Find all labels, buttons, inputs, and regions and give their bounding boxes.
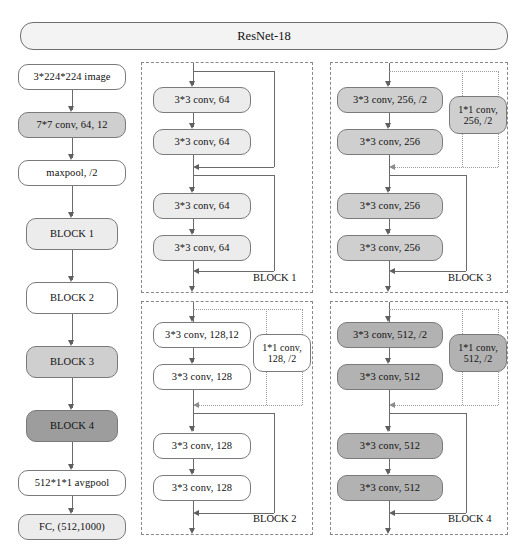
block-3-downsample-conv-line2: 256, /2 <box>464 115 492 127</box>
diagram-title-label: ResNet-18 <box>237 29 290 44</box>
connector-line <box>389 155 390 167</box>
block-3-conv-2[interactable]: 3*3 conv, 256 <box>337 129 443 155</box>
skip-connection-line <box>274 175 275 271</box>
skip-connection-line <box>389 413 467 414</box>
block-2-conv-2[interactable]: 3*3 conv, 128 <box>153 364 251 390</box>
block-3-conv-4[interactable]: 3*3 conv, 256 <box>337 235 443 261</box>
pipeline-node-avgpool[interactable]: 512*1*1 avgpool <box>18 470 126 496</box>
downsample-shortcut-line <box>389 71 499 72</box>
skip-connection-line <box>393 513 466 514</box>
pipeline-node-maxpool[interactable]: maxpool, /2 <box>18 160 126 186</box>
pipeline-node-block4[interactable]: BLOCK 4 <box>26 410 118 442</box>
downsample-shortcut-line <box>462 71 463 96</box>
skip-connection-line <box>193 175 275 176</box>
downsample-shortcut-line <box>193 309 303 310</box>
connector-line <box>193 261 194 271</box>
skip-connection-line <box>466 413 467 513</box>
connector-line <box>389 501 390 513</box>
pipeline-node-conv7x7[interactable]: 7*7 conv, 64, 12 <box>18 112 126 138</box>
downsample-shortcut-line <box>393 405 498 406</box>
block-2-conv-1[interactable]: 3*3 conv, 128,12 <box>153 322 251 348</box>
arrow-left-icon <box>193 268 199 274</box>
block-4-conv-2[interactable]: 3*3 conv, 512 <box>337 364 443 390</box>
block-4-conv-3[interactable]: 3*3 conv, 512 <box>337 433 443 459</box>
connector-line <box>389 390 390 405</box>
block-2-downsample-conv-line1: 1*1 conv, <box>262 342 302 354</box>
pipeline-node-block1[interactable]: BLOCK 1 <box>26 218 118 250</box>
block-2-downsample-conv-line2: 128, /2 <box>268 353 296 365</box>
block-3-conv-1[interactable]: 3*3 conv, 256, /2 <box>337 87 443 113</box>
downsample-shortcut-line <box>462 134 463 167</box>
downsample-shortcut-line <box>389 309 499 310</box>
pipeline-node-fc[interactable]: FC, (512,1000) <box>18 514 126 540</box>
downsample-shortcut-line <box>197 405 302 406</box>
arrow-left-icon <box>389 402 395 408</box>
skip-connection-line <box>193 71 275 72</box>
block-3-downsample-conv-line1: 1*1 conv, <box>458 104 498 116</box>
arrow-left-icon <box>193 510 199 516</box>
arrow-down-icon <box>385 528 391 534</box>
connector-line <box>389 261 390 271</box>
arrow-left-icon <box>389 164 395 170</box>
arrow-down-icon <box>189 528 195 534</box>
block-4-downsample-conv-line1: 1*1 conv, <box>458 342 498 354</box>
skip-connection-line <box>466 175 467 271</box>
block-4-downsample-conv-line2: 512, /2 <box>464 353 492 365</box>
downsample-shortcut-line <box>266 309 267 334</box>
downsample-shortcut-line <box>462 372 463 405</box>
block-2-region-label: BLOCK 2 <box>253 513 296 524</box>
pipeline-node-block3[interactable]: BLOCK 3 <box>26 346 118 378</box>
skip-connection-line <box>197 271 274 272</box>
downsample-shortcut-line <box>266 372 267 405</box>
connector-line <box>193 501 194 513</box>
diagram-title: ResNet-18 <box>20 22 508 50</box>
block-2-conv-3[interactable]: 3*3 conv, 128 <box>153 433 251 459</box>
block-1-conv-3[interactable]: 3*3 conv, 64 <box>153 193 251 219</box>
connector-line <box>193 155 194 167</box>
resnet18-architecture-diagram: ResNet-18 3*224*224 image 7*7 conv, 64, … <box>0 0 523 547</box>
skip-connection-line <box>197 167 274 168</box>
block-2-downsample-conv[interactable]: 1*1 conv, 128, /2 <box>253 334 311 372</box>
block-3-downsample-conv[interactable]: 1*1 conv, 256, /2 <box>449 96 507 134</box>
arrow-left-icon <box>193 164 199 170</box>
skip-connection-line <box>274 413 275 513</box>
block-3-region-label: BLOCK 3 <box>448 272 491 283</box>
skip-connection-line <box>193 413 275 414</box>
block-2-conv-4[interactable]: 3*3 conv, 128 <box>153 475 251 501</box>
downsample-shortcut-line <box>462 309 463 334</box>
skip-connection-line <box>389 175 467 176</box>
skip-connection-line <box>197 513 274 514</box>
arrow-down-icon <box>385 286 391 292</box>
block-1-region-label: BLOCK 1 <box>253 272 296 283</box>
connector-line <box>193 390 194 405</box>
block-3-conv-3[interactable]: 3*3 conv, 256 <box>337 193 443 219</box>
arrow-left-icon <box>389 268 395 274</box>
block-1-conv-2[interactable]: 3*3 conv, 64 <box>153 129 251 155</box>
skip-connection-line <box>274 71 275 167</box>
arrow-left-icon <box>389 510 395 516</box>
block-1-conv-4[interactable]: 3*3 conv, 64 <box>153 235 251 261</box>
block-4-downsample-conv[interactable]: 1*1 conv, 512, /2 <box>449 334 507 372</box>
skip-connection-line <box>393 271 466 272</box>
arrow-down-icon <box>189 286 195 292</box>
block-4-conv-1[interactable]: 3*3 conv, 512, /2 <box>337 322 443 348</box>
pipeline-node-input-image[interactable]: 3*224*224 image <box>18 64 126 90</box>
block-1-conv-1[interactable]: 3*3 conv, 64 <box>153 87 251 113</box>
arrow-left-icon <box>193 402 199 408</box>
arrow-down-icon <box>385 426 391 432</box>
block-4-region-label: BLOCK 4 <box>448 513 491 524</box>
block-4-conv-4[interactable]: 3*3 conv, 512 <box>337 475 443 501</box>
pipeline-node-block2[interactable]: BLOCK 2 <box>26 282 118 314</box>
arrow-down-icon <box>189 426 195 432</box>
downsample-shortcut-line <box>393 167 498 168</box>
